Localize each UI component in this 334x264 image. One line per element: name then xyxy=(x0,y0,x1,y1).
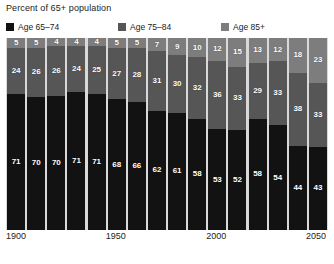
chart-axis-title: Percent of 65+ population xyxy=(6,3,111,13)
x-tick-1950: 1950 xyxy=(106,231,126,241)
segment-age-75-84-2050: 33 xyxy=(309,83,327,147)
segment-value-label: 31 xyxy=(153,77,162,85)
segment-value-label: 26 xyxy=(32,68,41,76)
segment-age-85-plus-1900: 5 xyxy=(7,38,25,48)
segment-age-75-84-1910: 26 xyxy=(27,48,45,97)
segment-age-75-84-1940: 25 xyxy=(88,46,106,94)
bar-2040: 183844 xyxy=(289,38,307,230)
segment-value-label: 32 xyxy=(193,84,202,92)
chart-legend: Age 65–74 Age 75–84 Age 85+ xyxy=(6,20,328,33)
segment-value-label: 12 xyxy=(273,46,282,54)
segment-age-75-84-2000: 36 xyxy=(208,61,226,129)
segment-value-label: 71 xyxy=(12,158,21,166)
segment-age-65-74-2020: 58 xyxy=(249,119,267,230)
segment-value-label: 4 xyxy=(94,38,98,46)
segment-value-label: 33 xyxy=(273,89,282,97)
segment-value-label: 23 xyxy=(314,56,323,64)
segment-age-85-plus-2000: 12 xyxy=(208,38,226,61)
bar-2000: 123653 xyxy=(208,38,226,230)
segment-value-label: 54 xyxy=(273,174,282,182)
bar-1980: 93061 xyxy=(168,38,186,230)
x-axis: 1900195020002050 xyxy=(6,231,328,247)
segment-value-label: 24 xyxy=(12,67,21,75)
segment-age-65-74-2000: 53 xyxy=(208,129,226,230)
segment-value-label: 36 xyxy=(213,91,222,99)
x-tick-2050: 2050 xyxy=(306,231,326,241)
segment-age-75-84-1960: 28 xyxy=(128,48,146,102)
legend-label-age-85-plus: Age 85+ xyxy=(233,22,265,32)
segment-age-65-74-2010: 52 xyxy=(228,130,246,230)
segment-age-75-84-1970: 31 xyxy=(148,51,166,111)
segment-age-85-plus-1950: 5 xyxy=(108,38,126,48)
segment-age-85-plus-1930: 4 xyxy=(67,38,85,46)
segment-value-label: 33 xyxy=(314,111,323,119)
segment-value-label: 33 xyxy=(233,94,242,102)
segment-age-85-plus-2030: 12 xyxy=(269,38,287,61)
segment-value-label: 27 xyxy=(112,70,121,78)
segment-value-label: 5 xyxy=(34,39,38,47)
segment-value-label: 43 xyxy=(314,184,323,192)
segment-age-65-74-1930: 71 xyxy=(67,92,85,230)
segment-value-label: 70 xyxy=(52,159,61,167)
segment-age-65-74-1920: 70 xyxy=(47,96,65,230)
bar-1900: 52471 xyxy=(7,38,25,230)
legend-label-age-65-74: Age 65–74 xyxy=(18,22,59,32)
legend-swatch-age-65-74 xyxy=(6,23,14,31)
legend-swatch-age-85-plus xyxy=(221,23,229,31)
bar-group: 5247152670426704247142571527685286673162… xyxy=(6,38,328,230)
segment-value-label: 38 xyxy=(293,105,302,113)
segment-age-65-74-1980: 61 xyxy=(168,113,186,230)
bar-1910: 52670 xyxy=(27,38,45,230)
segment-age-65-74-2050: 43 xyxy=(309,147,327,230)
segment-age-75-84-2020: 29 xyxy=(249,63,267,119)
segment-age-75-84-1900: 24 xyxy=(7,48,25,94)
bar-1950: 52768 xyxy=(108,38,126,230)
segment-value-label: 5 xyxy=(135,39,139,47)
segment-age-85-plus-1980: 9 xyxy=(168,38,186,55)
segment-age-65-74-1970: 62 xyxy=(148,111,166,230)
segment-value-label: 25 xyxy=(92,66,101,74)
segment-value-label: 66 xyxy=(132,162,141,170)
segment-value-label: 71 xyxy=(72,157,81,165)
segment-age-85-plus-1910: 5 xyxy=(27,38,45,48)
segment-value-label: 18 xyxy=(293,51,302,59)
segment-value-label: 26 xyxy=(52,67,61,75)
segment-age-65-74-1950: 68 xyxy=(108,99,126,230)
segment-age-65-74-2030: 54 xyxy=(269,125,287,230)
segment-age-85-plus-1960: 5 xyxy=(128,38,146,48)
legend-item-age-65-74: Age 65–74 xyxy=(6,20,59,33)
segment-value-label: 61 xyxy=(173,167,182,175)
segment-age-65-74-1910: 70 xyxy=(27,97,45,230)
segment-value-label: 5 xyxy=(14,39,18,47)
legend-label-age-75-84: Age 75–84 xyxy=(130,22,171,32)
segment-value-label: 44 xyxy=(293,184,302,192)
segment-age-65-74-2040: 44 xyxy=(289,146,307,230)
bar-1940: 42571 xyxy=(88,38,106,230)
segment-age-85-plus-1940: 4 xyxy=(88,38,106,46)
segment-age-65-74-1960: 66 xyxy=(128,102,146,230)
legend-item-age-85-plus: Age 85+ xyxy=(221,20,265,33)
segment-age-75-84-2010: 33 xyxy=(228,67,246,130)
bar-1920: 42670 xyxy=(47,38,65,230)
bar-1930: 42471 xyxy=(67,38,85,230)
legend-swatch-age-75-84 xyxy=(118,23,126,31)
segment-value-label: 71 xyxy=(92,158,101,166)
segment-value-label: 30 xyxy=(173,80,182,88)
segment-value-label: 5 xyxy=(115,39,119,47)
stacked-bar-chart: Percent of 65+ population Age 65–74 Age … xyxy=(0,0,334,264)
segment-age-75-84-1980: 30 xyxy=(168,55,186,113)
bar-1960: 52866 xyxy=(128,38,146,230)
plot-area: 5247152670426704247142571527685286673162… xyxy=(6,38,328,230)
x-tick-1900: 1900 xyxy=(6,231,26,241)
segment-age-85-plus-1970: 7 xyxy=(148,38,166,51)
legend-item-age-75-84: Age 75–84 xyxy=(118,20,171,33)
segment-age-75-84-2030: 33 xyxy=(269,61,287,125)
segment-age-75-84-1930: 24 xyxy=(67,46,85,93)
segment-value-label: 52 xyxy=(233,176,242,184)
segment-value-label: 58 xyxy=(253,170,262,178)
segment-age-85-plus-2050: 23 xyxy=(309,38,327,83)
segment-value-label: 12 xyxy=(213,45,222,53)
segment-value-label: 4 xyxy=(74,38,78,46)
segment-value-label: 29 xyxy=(253,87,262,95)
bar-2050: 233343 xyxy=(309,38,327,230)
